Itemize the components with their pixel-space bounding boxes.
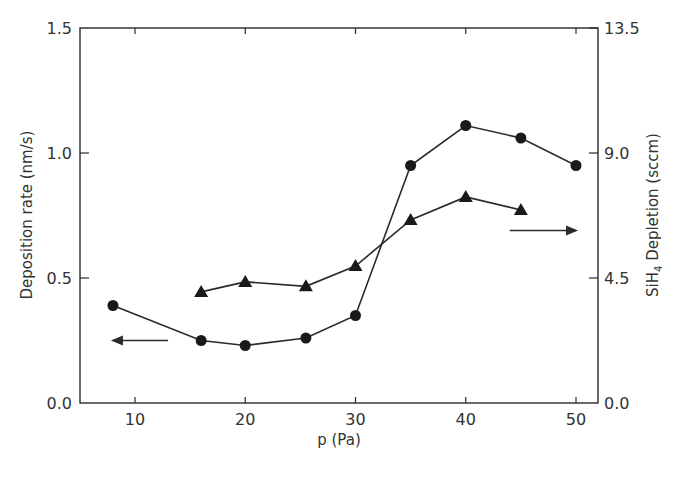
y2-tick-label: 4.5 — [604, 269, 629, 288]
series-line-circle — [113, 126, 576, 346]
x-tick-label: 20 — [235, 410, 255, 429]
x-tick-label: 40 — [456, 410, 476, 429]
circle-marker — [300, 333, 311, 344]
circle-marker — [460, 120, 471, 131]
circle-marker — [196, 335, 207, 346]
y-tick-label: 1.5 — [47, 19, 72, 38]
y-axis-left-label: Deposition rate (nm/s) — [18, 131, 36, 300]
plot-border — [80, 28, 598, 403]
x-axis-label: p (Pa) — [317, 431, 361, 449]
y-tick-label: 0.0 — [47, 394, 72, 413]
triangle-marker — [459, 190, 473, 202]
y-tick-label: 1.0 — [47, 144, 72, 163]
circle-marker — [350, 310, 361, 321]
x-tick-label: 50 — [566, 410, 586, 429]
series-line-triangle — [201, 197, 521, 292]
circle-marker — [405, 160, 416, 171]
x-tick-label: 30 — [345, 410, 365, 429]
series-markers — [107, 120, 581, 351]
triangle-marker — [349, 259, 363, 271]
y2-tick-label: 0.0 — [604, 394, 629, 413]
y-axis-right-label: SiH4 Depletion (sccm) — [644, 133, 664, 297]
triangle-marker — [404, 213, 418, 225]
annotation-arrows — [111, 226, 578, 346]
circle-marker — [107, 300, 118, 311]
arrowhead-icon — [111, 336, 123, 346]
y2-tick-label: 9.0 — [604, 144, 629, 163]
y-axis-right: 0.04.59.013.5 — [589, 19, 640, 413]
series-lines — [113, 126, 576, 346]
circle-marker — [515, 133, 526, 144]
y-axis-left: 0.00.51.01.5 — [47, 19, 89, 413]
y-tick-label: 0.5 — [47, 269, 72, 288]
chart: 1020304050 0.00.51.01.5 0.04.59.013.5 p … — [0, 0, 688, 480]
x-tick-label: 10 — [125, 410, 145, 429]
arrowhead-icon — [566, 226, 578, 236]
circle-marker — [571, 160, 582, 171]
x-axis: 1020304050 — [125, 28, 586, 429]
triangle-marker — [238, 275, 252, 287]
plot-frame — [80, 28, 598, 403]
circle-marker — [240, 340, 251, 351]
y2-tick-label: 13.5 — [604, 19, 640, 38]
